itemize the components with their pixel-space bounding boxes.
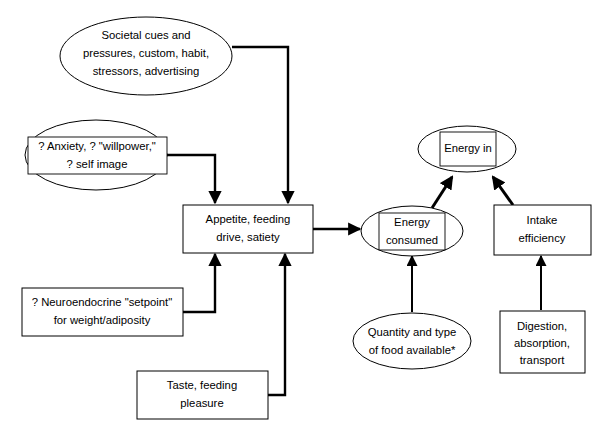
node-intake-efficiency[interactable]: Intake efficiency xyxy=(494,205,591,255)
node-neuroendocrine-setpoint[interactable]: ? Neuroendocrine "setpoint" for weight/a… xyxy=(22,288,183,336)
node-quantity-type-food-line-1: of food available* xyxy=(369,344,456,356)
node-anxiety-willpower-line-1: ? self image xyxy=(67,158,128,170)
node-appetite-feeding-drive-line-0: Appetite, feeding xyxy=(206,213,291,225)
edge-energy-consumed-to-energy-in xyxy=(432,177,452,208)
node-neuroendocrine-setpoint-line-0: ? Neuroendocrine "setpoint" xyxy=(32,296,173,308)
edge-societal-to-appetite xyxy=(232,47,288,203)
edge-intake-efficiency-to-energy-in xyxy=(493,177,513,205)
node-digestion-absorption-line-1: absorption, xyxy=(514,337,570,349)
node-societal-cues-line-2: stressors, advertising xyxy=(93,65,200,77)
node-intake-efficiency-line-0: Intake xyxy=(527,214,558,226)
node-quantity-type-food[interactable]: Quantity and type of food available* xyxy=(353,313,471,369)
node-societal-cues-line-1: pressures, custom, habit, xyxy=(83,47,209,59)
node-anxiety-willpower[interactable]: ? Anxiety, ? "willpower," ? self image xyxy=(25,120,167,190)
node-energy-in-line-0: Energy in xyxy=(444,142,492,154)
edge-anxiety-to-appetite xyxy=(166,155,215,203)
node-energy-consumed-line-1: consumed xyxy=(386,234,438,246)
node-neuroendocrine-setpoint-line-1: for weight/adiposity xyxy=(54,314,151,326)
node-appetite-feeding-drive-line-1: drive, satiety xyxy=(216,231,280,243)
node-energy-consumed-line-0: Energy xyxy=(394,216,430,228)
flow-diagram: Societal cues and pressures, custom, hab… xyxy=(0,0,604,433)
node-energy-consumed[interactable]: Energy consumed xyxy=(361,206,463,256)
node-anxiety-willpower-line-0: ? Anxiety, ? "willpower," xyxy=(38,140,156,152)
node-taste-feeding-pleasure-line-0: Taste, feeding xyxy=(167,379,237,391)
node-digestion-absorption-line-0: Digestion, xyxy=(517,320,567,332)
edge-taste-to-appetite xyxy=(268,254,285,395)
node-energy-in[interactable]: Energy in xyxy=(418,126,516,172)
node-appetite-feeding-drive[interactable]: Appetite, feeding drive, satiety xyxy=(183,205,313,253)
node-quantity-type-food-line-0: Quantity and type xyxy=(368,326,457,338)
node-taste-feeding-pleasure-line-1: pleasure xyxy=(180,397,223,409)
node-digestion-absorption-line-2: transport xyxy=(520,354,565,366)
flow-diagram-canvas: Societal cues and pressures, custom, hab… xyxy=(0,0,604,433)
node-taste-feeding-pleasure[interactable]: Taste, feeding pleasure xyxy=(137,371,268,419)
node-societal-cues[interactable]: Societal cues and pressures, custom, hab… xyxy=(60,17,232,95)
node-intake-efficiency-line-1: efficiency xyxy=(519,232,566,244)
node-digestion-absorption[interactable]: Digestion, absorption, transport xyxy=(500,311,585,373)
edge-neuroendocrine-to-appetite xyxy=(183,254,215,312)
node-societal-cues-line-0: Societal cues and xyxy=(101,29,190,41)
